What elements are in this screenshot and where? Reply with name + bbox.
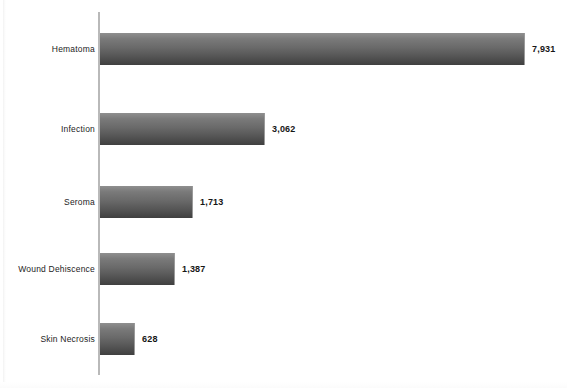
- bar-row: Infection 3,062: [0, 112, 567, 146]
- category-label-seroma: Seroma: [64, 197, 95, 207]
- bar-row: Wound Dehiscence 1,387: [0, 252, 567, 286]
- value-label-infection: 3,062: [272, 124, 296, 134]
- bar-wound-dehiscence: [100, 253, 175, 285]
- bar-infection: [100, 113, 265, 145]
- bar-hematoma: [100, 33, 525, 65]
- category-label-wound-dehiscence: Wound Dehiscence: [18, 264, 95, 274]
- value-label-wound-dehiscence: 1,387: [182, 264, 206, 274]
- bar-seroma: [100, 186, 193, 218]
- value-label-hematoma: 7,931: [532, 44, 556, 54]
- chart-screenshot: Hematoma 7,931 Infection 3,062 Seroma 1,…: [0, 0, 567, 388]
- bar-skin-necrosis: [100, 323, 135, 355]
- category-label-skin-necrosis: Skin Necrosis: [40, 334, 95, 344]
- category-label-infection: Infection: [61, 124, 95, 134]
- value-label-seroma: 1,713: [200, 197, 224, 207]
- bar-row: Skin Necrosis 628: [0, 322, 567, 356]
- bar-row: Hematoma 7,931: [0, 32, 567, 66]
- bar-row: Seroma 1,713: [0, 185, 567, 219]
- plot-area: Hematoma 7,931 Infection 3,062 Seroma 1,…: [0, 0, 567, 388]
- category-label-hematoma: Hematoma: [52, 44, 95, 54]
- value-label-skin-necrosis: 628: [142, 334, 158, 344]
